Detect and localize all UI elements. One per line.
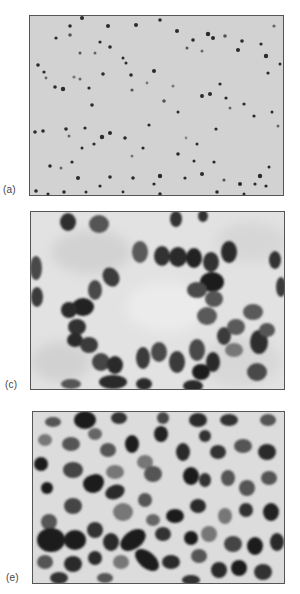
panel-label-c: (c)	[5, 379, 17, 390]
micrograph-image-c	[31, 212, 284, 389]
micrograph-panel-e	[32, 411, 285, 584]
micrograph-image-a	[30, 16, 283, 195]
panel-label-e: (e)	[6, 572, 19, 583]
panel-label-a: (a)	[3, 184, 16, 195]
micrograph-panel-a	[29, 15, 284, 196]
micrograph-image-e	[33, 412, 284, 583]
micrograph-panel-c	[30, 211, 285, 390]
